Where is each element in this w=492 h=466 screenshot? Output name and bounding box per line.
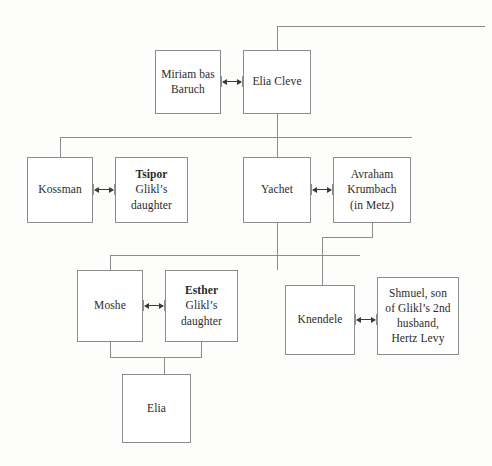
node-kossman[interactable]: Kossman	[27, 157, 93, 223]
connector-drop-kossman	[60, 137, 61, 157]
family-tree-diagram: Miriam bas Baruch Elia Cleve Kossman Tsi…	[0, 0, 492, 466]
connector-elia-cleve-down	[277, 114, 278, 157]
double-arrow-icon	[313, 189, 331, 190]
connector-row3-bus	[110, 255, 360, 256]
node-shmuel[interactable]: Shmuel, son of Glikl’s 2nd husband, Hert…	[377, 277, 459, 355]
connector-avraham-jog	[322, 237, 373, 238]
node-yachet-line1: Yachet	[248, 182, 306, 197]
node-shmuel-line3: husband,	[382, 316, 454, 331]
marriage-moshe-esther	[143, 300, 165, 311]
connector-elia-cleve-up	[277, 26, 278, 50]
double-arrow-icon	[145, 305, 163, 306]
connector-row2-bus	[60, 137, 412, 138]
node-kossman-line1: Kossman	[32, 182, 88, 197]
node-miriam-line2: Baruch	[160, 82, 216, 97]
node-esther-line3: daughter	[170, 314, 233, 329]
double-arrow-icon	[223, 81, 241, 82]
node-tsipor-line1: Tsipor	[120, 167, 183, 182]
node-shmuel-line2: of Glikl’s 2nd	[382, 301, 454, 316]
node-moshe[interactable]: Moshe	[77, 270, 143, 342]
node-tsipor-line3: daughter	[120, 198, 183, 213]
marriage-knendele-shmuel	[355, 314, 377, 325]
connector-drop-elia-child	[164, 357, 165, 374]
node-miriam-bas-baruch[interactable]: Miriam bas Baruch	[155, 50, 221, 114]
node-elia-child-line1: Elia	[127, 401, 186, 416]
node-avraham-krumbach[interactable]: Avraham Krumbach (in Metz)	[333, 157, 411, 223]
double-arrow-icon	[357, 319, 375, 320]
node-miriam-line1: Miriam bas	[160, 67, 216, 82]
node-tsipor-line2: Glikl’s	[120, 182, 183, 197]
connector-moshe-down	[110, 342, 111, 358]
node-avraham-line1: Avraham	[338, 167, 406, 182]
node-avraham-line3: (in Metz)	[338, 198, 406, 213]
node-knendele-line1: Knendele	[290, 312, 350, 327]
double-arrow-icon	[95, 189, 113, 190]
marriage-kossman-tsipor	[93, 184, 115, 195]
connector-avraham-down	[372, 223, 373, 237]
node-esther-line2: Glikl’s	[170, 298, 233, 313]
node-elia-child[interactable]: Elia	[122, 374, 191, 443]
node-shmuel-line1: Shmuel, son	[382, 286, 454, 301]
node-esther-line1: Esther	[170, 283, 233, 298]
node-moshe-line1: Moshe	[82, 298, 138, 313]
connector-row4-bus	[110, 357, 202, 358]
node-avraham-line2: Krumbach	[338, 182, 406, 197]
node-knendele[interactable]: Knendele	[285, 285, 355, 355]
connector-yachet-down	[277, 223, 278, 270]
connector-avraham-jog-down	[322, 237, 323, 285]
node-elia-cleve-line1: Elia Cleve	[248, 74, 306, 89]
node-elia-cleve[interactable]: Elia Cleve	[243, 50, 311, 114]
connector-esther-down	[201, 342, 202, 358]
marriage-yachet-avraham	[311, 184, 333, 195]
node-yachet[interactable]: Yachet	[243, 157, 311, 223]
marriage-miriam-elia	[221, 76, 243, 87]
node-shmuel-line4: Hertz Levy	[382, 331, 454, 346]
connector-top-rail	[277, 26, 485, 27]
node-tsipor[interactable]: Tsipor Glikl’s daughter	[115, 157, 188, 223]
node-esther[interactable]: Esther Glikl’s daughter	[165, 270, 238, 342]
